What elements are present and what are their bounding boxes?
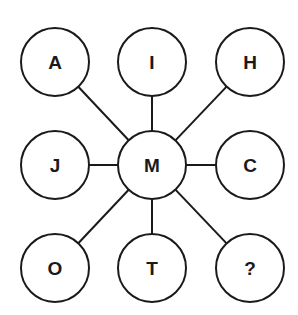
letter-wheel-diagram: AIHJCOT?M: [0, 0, 298, 315]
node-i: I: [118, 28, 186, 96]
connector-line: [78, 87, 128, 140]
node-label: T: [146, 258, 158, 279]
node-c: C: [216, 131, 284, 199]
node-j: J: [21, 131, 89, 199]
connector-line: [175, 190, 226, 244]
connector-line: [78, 190, 128, 243]
node-h: H: [216, 28, 284, 96]
node-label: H: [243, 52, 257, 73]
node-unknown: ?: [216, 234, 284, 302]
node-label: M: [144, 155, 160, 176]
connector-line: [175, 87, 226, 141]
node-o: O: [21, 234, 89, 302]
node-label: I: [149, 52, 154, 73]
node-label: J: [50, 155, 61, 176]
node-label: A: [48, 52, 62, 73]
node-a: A: [21, 28, 89, 96]
node-label: O: [48, 258, 63, 279]
node-center-m: M: [118, 131, 186, 199]
node-label: C: [243, 155, 257, 176]
node-t: T: [118, 234, 186, 302]
letter-nodes: AIHJCOT?M: [21, 28, 284, 302]
node-label: ?: [244, 258, 256, 279]
